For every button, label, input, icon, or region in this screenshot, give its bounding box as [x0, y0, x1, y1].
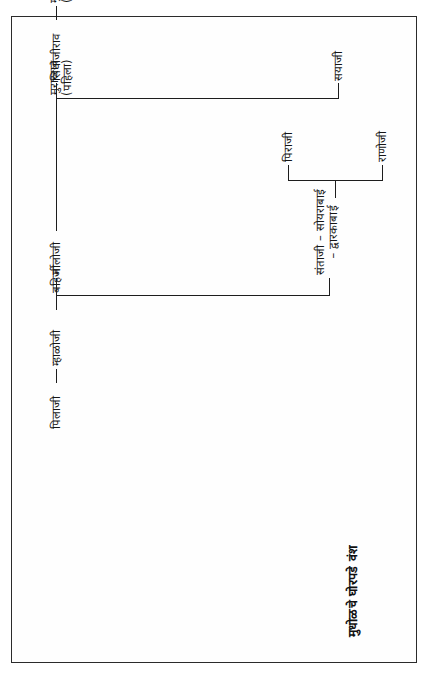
node-maloji: मालोजी — [50, 242, 63, 275]
connector-pilaji-mhaloji — [56, 369, 57, 383]
bracket-murarrao1-arm-sidhojirao — [56, 83, 57, 99]
bracket-bahirji-arm-maloji — [56, 278, 57, 296]
page-root: मुधोळचे घोरपडे वंश पिलाजी म्हाळोजी बहिर्… — [0, 0, 428, 674]
connector-mhaloji-bahirji — [56, 296, 57, 310]
node-santaji-line2: – द्वारकाबाई — [327, 189, 340, 275]
genealogy-chart: मुधोळचे घोरपडे वंश पिलाजी म्हाळोजी बहिर्… — [14, 19, 414, 659]
node-sayaji: सयाजी — [332, 51, 345, 81]
bracket-santaji-arm-piraji — [288, 165, 289, 181]
bracket-murarrao1-arm-sayaji — [338, 83, 339, 99]
node-mhaloji: म्हाळोजी — [50, 330, 63, 366]
page-title: मुधोळचे घोरपडे वंश — [344, 545, 361, 637]
node-piraji: पिराजी — [282, 132, 295, 162]
node-pilaji: पिलाजी — [50, 396, 63, 429]
node-santaji-line1: संताजी – सोयराबाई — [313, 189, 327, 275]
node-murarrao-tisara-line2: (तिसरा) — [61, 0, 74, 3]
node-sidhojirao: सिधोजीराव — [50, 34, 63, 82]
node-ranoji: राणोजी — [376, 131, 389, 162]
bracket-bahirji-arm-santaji — [329, 278, 330, 296]
bracket-murarrao1-spine — [56, 98, 338, 99]
connector-sidhojirao-murarrao3 — [56, 6, 57, 20]
connector-bahirji-murarrao1 — [56, 99, 57, 231]
node-murarrao-tisara-line1: मुरारराव — [47, 0, 61, 3]
node-murarrao-tisara: मुरारराव (तिसरा) — [48, 0, 73, 3]
bracket-bahirji-spine — [56, 295, 329, 296]
bracket-santaji-stem — [335, 180, 336, 198]
node-santaji: संताजी – सोयराबाई – द्वारकाबाई — [314, 189, 339, 275]
bracket-santaji-arm-ranoji — [382, 165, 383, 181]
